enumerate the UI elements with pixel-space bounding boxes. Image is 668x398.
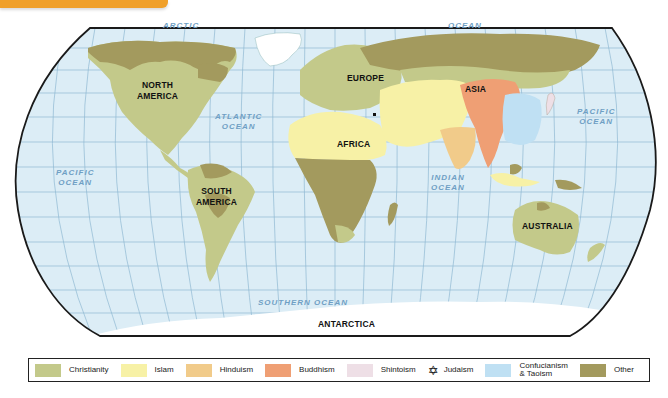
legend-item-islam: Islam — [121, 364, 174, 377]
ocean-label-southern: SOUTHERN OCEAN — [258, 298, 348, 308]
ocean-label-pacific-east: PACIFIC OCEAN — [577, 107, 615, 127]
pacific-east-label-text: PACIFIC OCEAN — [577, 107, 615, 127]
map-svg — [0, 0, 668, 345]
buddhism-swatch — [265, 364, 291, 377]
ocean-label-pacific-west: PACIFIC OCEAN — [56, 168, 94, 188]
ocean-label-atlantic: ATLANTIC OCEAN — [215, 112, 262, 132]
continent-label-south-america: SOUTH AMERICA — [196, 186, 237, 208]
star-of-david-icon: ✡ — [428, 364, 439, 377]
legend-label: Judaism — [444, 366, 474, 374]
indian-label-text: INDIAN OCEAN — [431, 173, 465, 193]
legend-label: Christianity — [69, 366, 109, 374]
legend-item-hinduism: Hinduism — [186, 364, 253, 377]
legend-label: Hinduism — [220, 366, 253, 374]
legend-label: Shintoism — [381, 366, 416, 374]
legend-item-shintoism: Shintoism — [347, 364, 416, 377]
continent-label-north-america: NORTH AMERICA — [137, 80, 178, 102]
legend-label: Other — [614, 366, 634, 374]
legend-item-buddhism: Buddhism — [265, 364, 335, 377]
judaism-marker — [373, 113, 376, 116]
legend: Christianity Islam Hinduism Buddhism Shi… — [28, 358, 650, 382]
confucianism-swatch — [485, 364, 511, 377]
legend-label: Buddhism — [299, 366, 335, 374]
legend-item-other: Other — [580, 364, 634, 377]
legend-label: Islam — [155, 366, 174, 374]
ocean-label-arctic: ARCTIC — [163, 21, 199, 31]
world-religions-map: ARCTIC OCEAN ATLANTIC OCEAN PACIFIC OCEA… — [0, 0, 668, 345]
ocean-label-indian: INDIAN OCEAN — [431, 173, 465, 193]
legend-item-christianity: Christianity — [35, 364, 109, 377]
shintoism-swatch — [347, 364, 373, 377]
legend-item-confucianism-taoism: Confucianism & Taoism — [485, 362, 567, 378]
continent-label-asia: ASIA — [465, 84, 486, 95]
ocean-label-arctic-ocean: OCEAN — [448, 21, 482, 31]
legend-label: Confucianism & Taoism — [519, 362, 567, 378]
atlantic-label-text: ATLANTIC OCEAN — [215, 112, 262, 132]
other-swatch — [580, 364, 606, 377]
continent-label-antarctica: ANTARCTICA — [318, 319, 375, 330]
legend-item-judaism: ✡ Judaism — [428, 364, 474, 377]
continent-label-europe: EUROPE — [347, 73, 384, 84]
christianity-swatch — [35, 364, 61, 377]
continent-label-africa: AFRICA — [337, 139, 370, 150]
islam-swatch — [121, 364, 147, 377]
hinduism-swatch — [186, 364, 212, 377]
region-confucianism — [503, 93, 542, 145]
continent-label-australia: AUSTRALIA — [522, 221, 573, 232]
pacific-west-label-text: PACIFIC OCEAN — [56, 168, 94, 188]
